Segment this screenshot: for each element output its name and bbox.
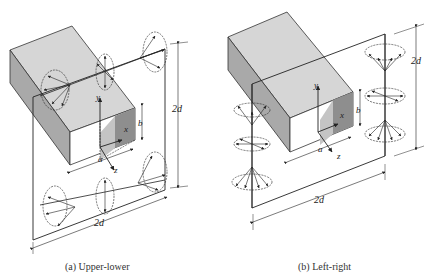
- width-2d-label: 2d: [314, 194, 325, 205]
- radiation-pattern-lower-left: [43, 186, 75, 226]
- waveguide-diagram: y x z b a 2d 2d: [0, 0, 434, 278]
- radiation-pattern-lower-right: [138, 152, 167, 192]
- caption-a: (a) Upper-lower: [65, 261, 130, 273]
- height-2d-label: 2d: [411, 55, 422, 66]
- dimension-a-label: a: [98, 154, 103, 164]
- panel-a: y x z b a 2d 2d: [10, 26, 188, 273]
- panel-b: y x z b a 2d 2d: [228, 12, 424, 273]
- y-axis-label: y: [313, 80, 318, 90]
- dimension-b-label: b: [138, 118, 143, 128]
- caption-b: (b) Left-right: [298, 261, 351, 273]
- dimension-a-label: a: [318, 144, 323, 154]
- z-axis-label: z: [336, 151, 341, 161]
- radiation-pattern-upper-right: [140, 32, 167, 72]
- z-axis-label: z: [113, 165, 118, 175]
- x-axis-label: x: [123, 124, 128, 134]
- radiation-pattern-lower-center: [96, 178, 114, 214]
- x-axis-label: x: [339, 110, 344, 120]
- height-2d-label: 2d: [172, 103, 183, 114]
- y-axis-label: y: [95, 92, 100, 102]
- dimension-b-label: b: [356, 105, 361, 115]
- width-2d-label: 2d: [94, 217, 105, 228]
